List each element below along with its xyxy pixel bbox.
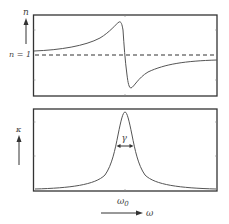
- n-axis-label: n: [23, 7, 29, 17]
- omega0-label: ω0: [117, 196, 129, 208]
- kappa-axis-arrow: [17, 135, 22, 165]
- kappa-axis-label: κ: [15, 125, 22, 134]
- bottom-frame: [34, 109, 218, 191]
- gamma-width-arrow: [117, 144, 134, 148]
- top-panel: n n = 1: [9, 7, 217, 96]
- absorption-curve: [35, 112, 216, 189]
- n-axis-arrow: [24, 18, 29, 44]
- x-axis: ω0 ω: [101, 196, 154, 218]
- bottom-panel: γ κ: [15, 109, 217, 191]
- omega-axis-label: ω: [146, 208, 154, 218]
- resonance-diagram: n n = 1 γ κ ω0 ω: [0, 0, 229, 224]
- omega-axis-arrow: [101, 211, 143, 216]
- gamma-label: γ: [122, 133, 128, 143]
- n-equals-one-label: n = 1: [9, 50, 31, 59]
